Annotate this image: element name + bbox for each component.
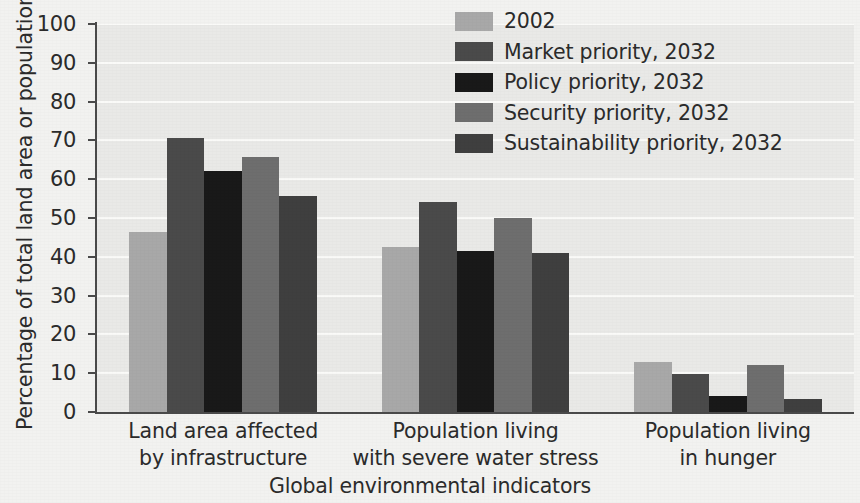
bar bbox=[242, 157, 280, 412]
bar bbox=[747, 365, 785, 412]
bar bbox=[672, 374, 710, 412]
x-axis-line bbox=[95, 412, 854, 414]
y-axis-tick-label: 20 bbox=[50, 322, 76, 346]
legend-item: Security priority, 2032 bbox=[455, 98, 755, 129]
legend-swatch bbox=[455, 12, 493, 31]
legend-label: Security priority, 2032 bbox=[504, 101, 729, 125]
x-axis-category-label-line: Population living bbox=[349, 418, 601, 445]
legend-label: Market priority, 2032 bbox=[504, 40, 716, 64]
bar-chart-figure: Percentage of total land area or populat… bbox=[0, 0, 860, 503]
y-axis-tick-labels: 0102030405060708090100 bbox=[0, 0, 88, 503]
x-axis-category-label: Population livingwith severe water stres… bbox=[349, 418, 601, 472]
x-axis-category-label-line: with severe water stress bbox=[349, 445, 601, 472]
y-axis-tick-label: 90 bbox=[50, 51, 76, 75]
legend-label: 2002 bbox=[504, 9, 555, 33]
bar bbox=[457, 251, 495, 412]
bar bbox=[382, 247, 420, 412]
x-axis-category-label-line: by infrastructure bbox=[97, 445, 349, 472]
bar bbox=[419, 202, 457, 412]
chart-legend: 2002Market priority, 2032Policy priority… bbox=[455, 6, 755, 159]
x-axis-category-label-line: Land area affected bbox=[97, 418, 349, 445]
legend-swatch bbox=[455, 103, 493, 122]
x-axis-category-labels: Land area affectedby infrastructurePopul… bbox=[97, 418, 854, 476]
bar bbox=[129, 232, 167, 412]
legend-swatch bbox=[455, 42, 493, 61]
y-axis-tick-label: 100 bbox=[37, 12, 76, 36]
bar bbox=[279, 196, 317, 413]
y-axis-tick-label: 40 bbox=[50, 245, 76, 269]
legend-swatch bbox=[455, 134, 493, 153]
bar bbox=[494, 218, 532, 412]
y-axis-tick-label: 50 bbox=[50, 206, 76, 230]
x-axis-category-label-line: Population living bbox=[602, 418, 854, 445]
bar bbox=[634, 362, 672, 412]
legend-item: Market priority, 2032 bbox=[455, 37, 755, 68]
legend-item: Sustainability priority, 2032 bbox=[455, 128, 755, 159]
y-axis-tick-mark-top bbox=[88, 23, 97, 25]
y-axis-tick-label: 10 bbox=[50, 361, 76, 385]
x-axis-title: Global environmental indicators bbox=[0, 474, 860, 498]
x-axis-category-label-line: in hunger bbox=[602, 445, 854, 472]
y-axis-tick-label: 80 bbox=[50, 90, 76, 114]
legend-swatch bbox=[455, 73, 493, 92]
bar bbox=[204, 171, 242, 412]
legend-item: Policy priority, 2032 bbox=[455, 67, 755, 98]
legend-item: 2002 bbox=[455, 6, 755, 37]
y-axis-tick-label: 30 bbox=[50, 284, 76, 308]
legend-label: Policy priority, 2032 bbox=[504, 70, 704, 94]
bar bbox=[167, 138, 205, 412]
bar bbox=[709, 396, 747, 412]
legend-label: Sustainability priority, 2032 bbox=[504, 131, 783, 155]
bar bbox=[532, 253, 570, 412]
y-axis-tick-label: 0 bbox=[63, 400, 76, 424]
bar bbox=[784, 399, 822, 412]
x-axis-category-label: Land area affectedby infrastructure bbox=[97, 418, 349, 472]
y-axis-tick-label: 70 bbox=[50, 128, 76, 152]
y-axis-tick-label: 60 bbox=[50, 167, 76, 191]
x-axis-category-label: Population livingin hunger bbox=[602, 418, 854, 472]
